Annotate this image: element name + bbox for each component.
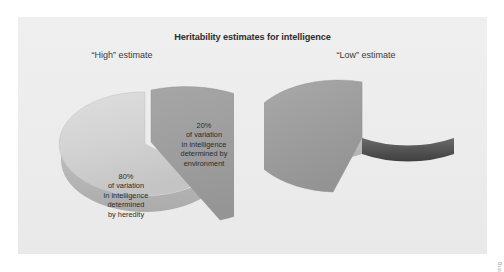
copyright-credit: © Cengage Learning [496,262,502,272]
page-title: Heritability estimates for intelligence [18,32,487,42]
panel-subtitle-high: “High” estimate [42,50,202,60]
pie-low-svg [264,64,460,236]
panel-subtitle-low: “Low” estimate [286,50,446,60]
pie-chart-low-estimate: 40% of variation in intelligence determi… [264,64,460,236]
pie-high-svg [56,64,234,232]
pie-slice-low-environment [264,80,362,192]
pie-low-side-wall-dark [362,138,454,162]
pie-chart-high-estimate: 20% of variation in intelligence determi… [56,64,234,232]
figure-panel: Heritability estimates for intelligence … [18,17,487,254]
